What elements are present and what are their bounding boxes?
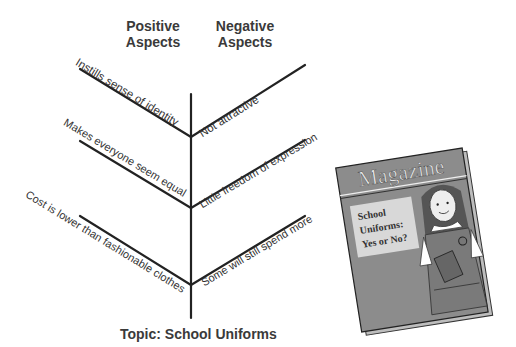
magazine-illustration: Magazine School Uniforms: Yes or No? [336,147,493,336]
branch-positive-2 [80,141,191,208]
topic-label: Topic: School Uniforms [120,326,277,342]
branch-positive-3 [80,216,191,285]
